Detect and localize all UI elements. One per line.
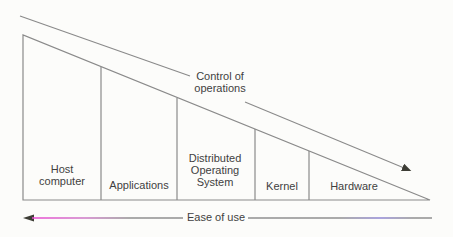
section-label-host-computer: Host computer — [32, 163, 92, 187]
control-arrow-segment-2 — [245, 102, 409, 170]
ease-arrow-label: Ease of use — [184, 211, 248, 223]
control-arrow-label: Control of operations — [188, 70, 252, 94]
section-label-distributed-operating-system: Distributed Operating System — [184, 152, 246, 188]
diagram: Control of operations Ease of use Host c… — [0, 0, 453, 237]
section-label-hardware: Hardware — [309, 180, 399, 192]
section-label-applications: Applications — [101, 179, 177, 191]
section-label-kernel: Kernel — [255, 180, 309, 192]
control-arrow-segment-1 — [20, 16, 190, 76]
diagram-lines — [0, 0, 453, 237]
